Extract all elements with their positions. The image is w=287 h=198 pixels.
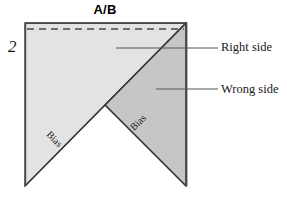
diagram-canvas xyxy=(0,0,287,198)
label-wrong-side: Wrong side xyxy=(221,83,278,96)
figure-title-ab: A/B xyxy=(0,3,210,16)
step-number: 2 xyxy=(8,38,17,55)
sewing-diagram-figure: A/B 2 Right side Wrong side Bias Bias xyxy=(0,0,287,198)
label-right-side: Right side xyxy=(221,41,272,54)
